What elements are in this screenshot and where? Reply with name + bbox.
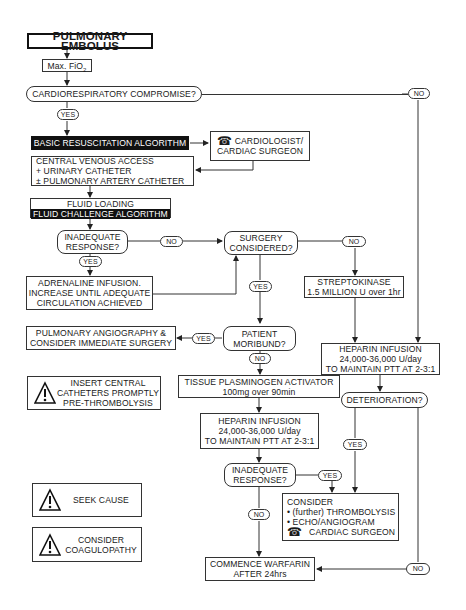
consider-box: CONSIDER • (further) THROMBOLYSIS • ECHO… <box>282 493 399 541</box>
yes-label: YES <box>192 333 215 344</box>
cb-line1: CONSIDER <box>287 497 333 507</box>
warning-triangle-icon <box>34 381 56 405</box>
cv-line3: ± PULMONARY ARTERY CATHETER <box>36 176 184 186</box>
central-venous-access-box: CENTRAL VENOUS ACCESS + URINARY CATHETER… <box>31 156 194 186</box>
pulmonary-angiography-box: PULMONARY ANGIOGRAPHY & CONSIDER IMMEDIA… <box>26 326 176 350</box>
no-label: NO <box>408 88 430 99</box>
subscript: 2 <box>83 66 86 72</box>
sk-line1: STREPTOKINASE <box>317 277 390 287</box>
heparin-infusion-box-right: HEPARIN INFUSION 24,000-36,000 U/day TO … <box>321 343 440 375</box>
inadequate-response-decision-1: INADEQUATE RESPONSE? <box>57 230 128 254</box>
yes-label: YES <box>249 281 272 292</box>
fluid-loading-box: FLUID LOADING FLUID CHALLENGE ALGORITHM <box>30 198 171 218</box>
cardiorespiratory-compromise-decision: CARDIORESPIRATORY COMPROMISE? <box>26 86 202 102</box>
ic-line1: INSERT CENTRAL <box>56 378 160 388</box>
streptokinase-box: STREPTOKINASE 1.5 MILLION U over 1hr <box>304 276 404 298</box>
hr-line2: 24,000-36,000 U/day <box>339 354 421 364</box>
hc-line1: HEPARIN INFUSION <box>218 416 301 426</box>
no-label: NO <box>160 236 183 247</box>
wf-line2: AFTER 24hrs <box>233 569 286 579</box>
tissue-plasminogen-activator-box: TISSUE PLASMINOGEN ACTIVATOR 100mg over … <box>178 375 340 398</box>
hr-line3: TO MAINTAIN PTT AT 2-3:1 <box>326 364 436 374</box>
warning-triangle-icon <box>39 488 61 512</box>
no-label: NO <box>249 353 271 364</box>
title-pulmonary-embolus: PULMONARY EMBOLUS <box>27 33 153 49</box>
yes-label: YES <box>343 439 367 450</box>
ir1-line1: INADEQUATE <box>64 232 120 242</box>
max-fio2-box: Max. FiO2 <box>42 59 92 72</box>
ang-line1: PULMONARY ANGIOGRAPHY & <box>36 328 166 338</box>
insert-central-catheters-warning: INSERT CENTRAL CATHETERS PROMPTLY PRE-TH… <box>27 376 161 410</box>
pm-line1: PATIENT <box>242 329 278 339</box>
no-label: NO <box>248 509 270 520</box>
deterioration-decision: DETERIORATION? <box>341 392 428 408</box>
cardiologist-line2: CARDIAC SURGEON <box>217 146 303 156</box>
yes-label: YES <box>57 109 79 120</box>
commence-warfarin-box: COMMENCE WARFARIN AFTER 24hrs <box>205 557 315 581</box>
max-fio2-text: Max. FiO <box>47 61 83 71</box>
hc-line3: TO MAINTAIN PTT AT 2-3:1 <box>205 436 315 446</box>
adr-line1: ADRENALINE INFUSION. <box>38 278 141 288</box>
tpa-line1: TISSUE PLASMINOGEN ACTIVATOR <box>185 377 334 387</box>
heparin-infusion-box-center: HEPARIN INFUSION 24,000-36,000 U/day TO … <box>200 413 319 449</box>
phone-icon: ☎ <box>217 136 232 146</box>
tpa-line2: 100mg over 90min <box>223 387 296 397</box>
fluid-loading-text: FLUID LOADING <box>67 199 134 209</box>
cardiologist-line1: CARDIOLOGIST/ <box>235 136 304 146</box>
consider-coagulopathy-warning: CONSIDER COAGULOPATHY <box>32 527 142 562</box>
basic-resuscitation-algorithm: BASIC RESUSCITATION ALGORITHM <box>31 136 189 150</box>
cv-line1: CENTRAL VENOUS ACCESS <box>36 156 154 166</box>
ir2-line1: INADEQUATE <box>232 465 288 475</box>
yes-label: YES <box>318 470 342 481</box>
yes-label: YES <box>79 256 102 267</box>
sc-line2: CONSIDERED? <box>229 243 292 253</box>
adrenaline-infusion-box: ADRENALINE INFUSION. INCREASE UNTIL ADEQ… <box>26 276 153 310</box>
no-label: NO <box>406 563 430 575</box>
warning-triangle-icon <box>39 533 61 557</box>
connector <box>202 94 408 95</box>
cv-line2: + URINARY CATHETER <box>36 166 132 176</box>
seek-cause-text: SEEK CAUSE <box>61 495 141 505</box>
no-label: NO <box>342 236 366 247</box>
ir1-line2: RESPONSE? <box>66 242 119 252</box>
ic-line3: PRE-THROMBOLYSIS <box>56 398 160 408</box>
coag-line2: COAGULOPATHY <box>61 545 141 555</box>
ic-line2: CATHETERS PROMPTLY <box>56 388 160 398</box>
ir2-line2: RESPONSE? <box>233 475 286 485</box>
ang-line2: CONSIDER IMMEDIATE SURGERY <box>30 338 172 348</box>
wf-line1: COMMENCE WARFARIN <box>210 559 310 569</box>
cb-line4: CARDIAC SURGEON <box>305 527 395 537</box>
adr-line2: INCREASE UNTIL ADEQUATE <box>29 288 151 298</box>
patient-moribund-decision: PATIENT MORIBUND? <box>223 326 296 351</box>
hr-line1: HEPARIN INFUSION <box>339 344 422 354</box>
coag-line1: CONSIDER <box>61 535 141 545</box>
sk-line2: 1.5 MILLION U over 1hr <box>307 287 400 297</box>
seek-cause-warning: SEEK CAUSE <box>32 483 142 517</box>
pm-line2: MORIBUND? <box>233 339 285 349</box>
inadequate-response-decision-2: INADEQUATE RESPONSE? <box>224 463 296 487</box>
adr-line3: CIRCULATION ACHIEVED <box>37 298 142 308</box>
fluid-challenge-algorithm: FLUID CHALLENGE ALGORITHM <box>31 209 170 219</box>
sc-line1: SURGERY <box>239 233 282 243</box>
surgery-considered-decision: SURGERY CONSIDERED? <box>224 231 298 255</box>
phone-icon: ☎ <box>287 527 302 537</box>
cb-line2: • (further) THROMBOLYSIS <box>287 507 395 517</box>
hc-line2: 24,000-36,000 U/day <box>218 426 300 436</box>
cardiologist-box: ☎CARDIOLOGIST/ CARDIAC SURGEON <box>210 131 310 161</box>
